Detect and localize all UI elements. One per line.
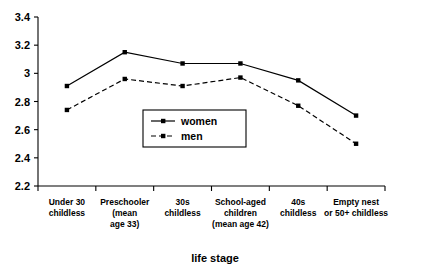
x-category-label: or 50+ childless (324, 208, 388, 218)
y-tick-label: 3.2 (15, 39, 30, 51)
x-category-label: Under 30 (49, 197, 86, 207)
y-tick-label: 2.4 (15, 152, 31, 164)
data-point-women (296, 78, 300, 82)
x-category-label: Preschooler (100, 197, 150, 207)
x-category-label: Empty nest (333, 197, 379, 207)
x-category-label: childless (280, 208, 317, 218)
y-tick-label: 3.4 (15, 11, 31, 23)
y-tick-label: 2.8 (15, 96, 30, 108)
x-category-label: 30s (175, 197, 189, 207)
y-tick-label: 2.6 (15, 124, 30, 136)
x-category-label: School-aged (215, 197, 266, 207)
x-axis (38, 186, 385, 191)
legend-label-women: women (180, 115, 217, 127)
data-point-men (180, 84, 184, 88)
data-point-women (238, 61, 242, 65)
x-category-label: children (224, 208, 257, 218)
data-point-women (354, 113, 358, 117)
chart-canvas: 3.43.232.82.62.42.2 womenmen Under 30chi… (0, 0, 430, 269)
x-category-label: (mean age 42) (212, 219, 269, 229)
data-point-men (354, 142, 358, 146)
category-labels: Under 30childlessPreschooler(meanage 33)… (49, 197, 389, 229)
data-point-men (238, 75, 242, 79)
line-chart: 3.43.232.82.62.42.2 womenmen Under 30chi… (0, 0, 430, 269)
x-category-label: (mean (112, 208, 137, 218)
legend-marker-women (161, 119, 165, 123)
legend-label-men: men (181, 130, 203, 142)
legend-marker-men (161, 134, 165, 138)
x-axis-title: life stage (191, 252, 239, 264)
data-point-men (296, 104, 300, 108)
x-category-label: childless (164, 208, 201, 218)
data-point-women (180, 61, 184, 65)
x-category-label: childless (49, 208, 86, 218)
y-tick-label: 3 (24, 67, 30, 79)
y-tick-label: 2.2 (15, 180, 30, 192)
x-category-label: 40s (291, 197, 305, 207)
chart-legend: womenmen (143, 110, 246, 147)
data-point-women (65, 84, 69, 88)
y-axis: 3.43.232.82.62.42.2 (15, 11, 38, 192)
data-point-men (65, 108, 69, 112)
data-point-men (123, 77, 127, 81)
series-line-women (67, 52, 356, 115)
data-point-women (123, 50, 127, 54)
x-category-label: age 33) (110, 219, 139, 229)
